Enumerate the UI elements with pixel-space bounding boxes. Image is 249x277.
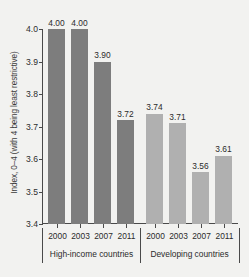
x-axis-group-label: High-income countries <box>43 249 140 259</box>
bar-slot: 4.00 <box>48 29 65 224</box>
x-axis-year-label: 2011 <box>114 231 140 241</box>
bar[interactable] <box>146 114 163 225</box>
y-axis-tick-label: 4.0 <box>14 24 38 34</box>
y-axis-tick-label: 3.7 <box>14 122 38 132</box>
x-axis-group-label: Developing countries <box>141 249 238 259</box>
bar-value-label: 3.90 <box>85 50 120 60</box>
bar-slot: 3.61 <box>215 29 232 224</box>
bar-slot: 3.72 <box>117 29 134 224</box>
bar[interactable] <box>169 123 186 224</box>
y-axis-tick-label: 3.4 <box>14 219 38 229</box>
bar-slot: 3.71 <box>169 29 186 224</box>
year-band-divider <box>140 228 141 245</box>
x-axis-group-band: High-income countriesDeveloping countrie… <box>42 245 240 263</box>
bar-slot: 3.90 <box>94 29 111 224</box>
y-axis-tick-label: 3.8 <box>14 89 38 99</box>
x-axis-year-band: 20002003200720112000200320072011 <box>42 228 240 245</box>
bar-chart-figure: Index, 0–4 (with 4 being least restricti… <box>0 0 249 277</box>
bar[interactable] <box>215 156 232 224</box>
bar-value-label: 3.71 <box>160 112 195 122</box>
bar-value-label: 3.56 <box>183 161 218 171</box>
bar-slot: 3.56 <box>192 29 209 224</box>
bar-value-label: 3.61 <box>206 144 241 154</box>
y-axis-tick-label: 3.5 <box>14 187 38 197</box>
bar-slot: 3.74 <box>146 29 163 224</box>
bar[interactable] <box>94 62 111 225</box>
bar[interactable] <box>192 172 209 224</box>
bar-value-label: 4.00 <box>62 18 97 28</box>
bar-value-label: 3.74 <box>137 102 172 112</box>
bar[interactable] <box>48 29 65 224</box>
y-axis-tick-label: 3.6 <box>14 154 38 164</box>
x-axis-year-label: 2011 <box>212 231 238 241</box>
plot-area: 4.004.003.903.723.743.713.563.61 <box>43 29 238 224</box>
y-axis-tick-label: 3.9 <box>14 57 38 67</box>
bar[interactable] <box>117 120 134 224</box>
y-axis-tick-mark <box>39 224 43 225</box>
